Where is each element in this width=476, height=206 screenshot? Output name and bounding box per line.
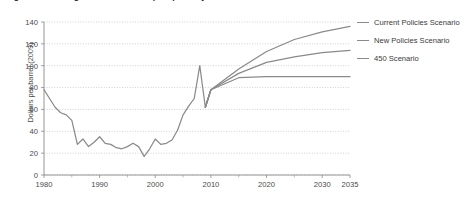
svg-text:40: 40 (30, 127, 38, 136)
legend-line-icon (357, 22, 369, 23)
legend-item-label: 450 Scenario (374, 55, 419, 63)
svg-text:20: 20 (30, 149, 38, 158)
axis-lines (44, 22, 350, 175)
legend-item-label: New Policies Scenario (374, 37, 450, 45)
svg-text:140: 140 (25, 18, 38, 27)
x-axis-ticks: 1980199020002010202020302035 (36, 175, 359, 189)
svg-text:80: 80 (30, 83, 38, 92)
svg-text:60: 60 (30, 105, 38, 114)
svg-text:2035: 2035 (342, 180, 359, 189)
figure-container: Figure 1.4 Average IEA crude oil import … (0, 0, 476, 206)
svg-text:1990: 1990 (91, 180, 108, 189)
legend-item-450-scenario[interactable]: 450 Scenario (357, 51, 475, 66)
svg-text:2000: 2000 (147, 180, 164, 189)
chart-legend: Current Policies Scenario New Policies S… (357, 15, 475, 69)
svg-text:2020: 2020 (258, 180, 275, 189)
legend-item-current-policies[interactable]: Current Policies Scenario (357, 15, 475, 30)
legend-line-icon (357, 40, 369, 41)
svg-text:2030: 2030 (314, 180, 331, 189)
gridlines (44, 22, 350, 175)
svg-text:1980: 1980 (36, 180, 53, 189)
y-axis-ticks: 020406080100120140 (25, 18, 44, 180)
legend-item-new-policies[interactable]: New Policies Scenario (357, 33, 475, 48)
svg-text:0: 0 (34, 171, 38, 180)
legend-line-icon (357, 58, 369, 59)
svg-text:120: 120 (25, 40, 38, 49)
legend-item-label: Current Policies Scenario (374, 19, 460, 27)
svg-text:100: 100 (25, 62, 38, 71)
svg-text:2010: 2010 (202, 180, 219, 189)
data-series (44, 26, 350, 156)
